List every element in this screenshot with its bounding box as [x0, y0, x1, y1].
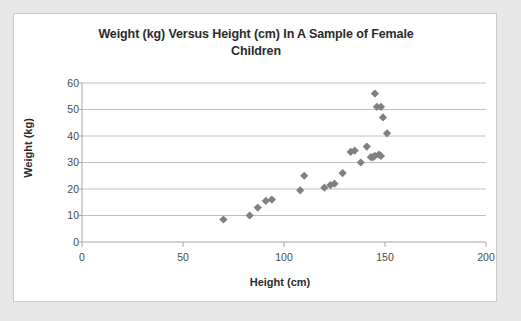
chart-card: Weight (kg) Versus Height (cm) In A Samp… [13, 13, 497, 302]
plot-area: Weight (kg) Height (cm) 60 50 40 30 20 1… [14, 14, 498, 303]
x-tick-marks [82, 242, 486, 247]
data-point [371, 90, 379, 98]
data-point [379, 113, 387, 121]
data-point [300, 172, 308, 180]
data-point [363, 143, 371, 151]
data-point [338, 169, 346, 177]
data-point [246, 211, 254, 219]
data-point [254, 203, 262, 211]
data-point [296, 186, 304, 194]
data-point [268, 196, 276, 204]
y-tick-marks [77, 83, 82, 242]
data-point [262, 197, 270, 205]
gridlines [82, 83, 486, 216]
data-point [357, 158, 365, 166]
scatter-plot-svg [14, 14, 498, 303]
data-point [219, 215, 227, 223]
